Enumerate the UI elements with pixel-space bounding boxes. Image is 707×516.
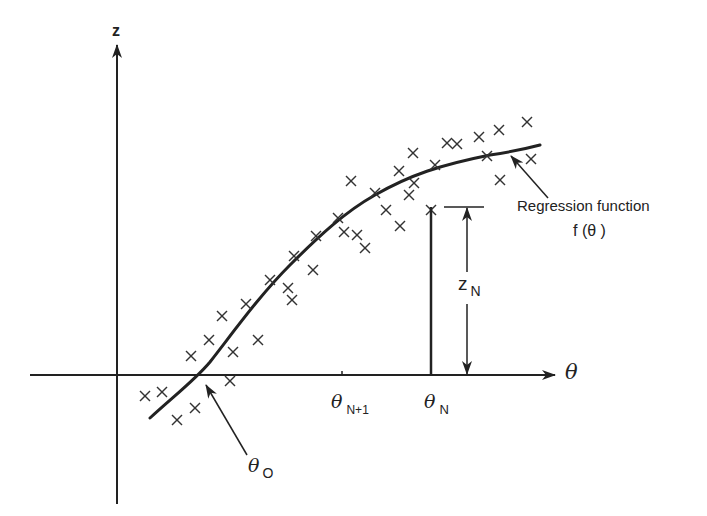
z-n-subscript: N [471,283,481,299]
data-point-x-mark [394,166,404,176]
theta-n-subscript: N [439,402,448,417]
data-point-x-mark [495,175,505,185]
z-n-main: z [458,273,468,294]
data-point-x-mark [225,376,235,386]
regression-function-label: Regression function [517,197,650,214]
data-point-x-mark [339,227,349,237]
data-point-x-mark [283,283,293,293]
theta-o-pointer-arrow [206,385,247,455]
data-point-x-mark [253,335,263,345]
data-point-x-mark [217,311,227,321]
data-point-x-mark [346,176,356,186]
theta-o-main: θ [248,454,259,476]
data-point-x-mark [360,243,370,253]
theta-o-subscript: O [262,465,273,481]
data-point-x-mark [204,335,214,345]
diagram-canvas: z θ Regression function f (θ ) zN θN+1 θ… [0,0,707,516]
data-point-x-mark [442,138,452,148]
data-point-x-mark [352,230,362,240]
theta-n-main: θ [424,390,435,412]
data-point-x-mark [409,178,419,188]
regression-function-formula: f (θ ) [573,222,606,240]
data-point-x-mark [265,275,275,285]
data-point-x-mark [241,299,251,309]
theta-o-label: θO [248,454,273,477]
data-point-x-mark [287,295,297,305]
data-point-x-mark [157,387,167,397]
data-point-x-mark [172,415,182,425]
data-point-x-mark [140,391,150,401]
data-point-x-mark [526,154,536,164]
scatter-points [140,117,536,425]
z-n-label: zN [458,273,481,295]
data-point-x-mark [308,265,318,275]
theta-axis-label: θ [565,360,578,384]
data-point-x-mark [381,205,391,215]
regression-diagram [0,0,707,516]
theta-n-label: θN [424,390,449,413]
theta-n-plus-1-main: θ [331,390,342,412]
theta-n-plus-1-subscript: N+1 [346,403,368,417]
data-point-x-mark [228,347,238,357]
data-point-x-mark [404,190,414,200]
z-axis-label: z [112,22,120,40]
data-point-x-mark [395,221,405,231]
data-point-x-mark [408,148,418,158]
regression-curve [150,145,540,418]
data-point-x-mark [186,351,196,361]
data-point-x-mark [190,403,200,413]
data-point-x-mark [494,125,504,135]
data-point-x-mark [522,117,532,127]
data-point-x-mark [452,139,462,149]
theta-n-plus-1-label: θN+1 [331,390,369,413]
regression-pointer-arrow [511,156,548,198]
data-point-x-mark [474,132,484,142]
